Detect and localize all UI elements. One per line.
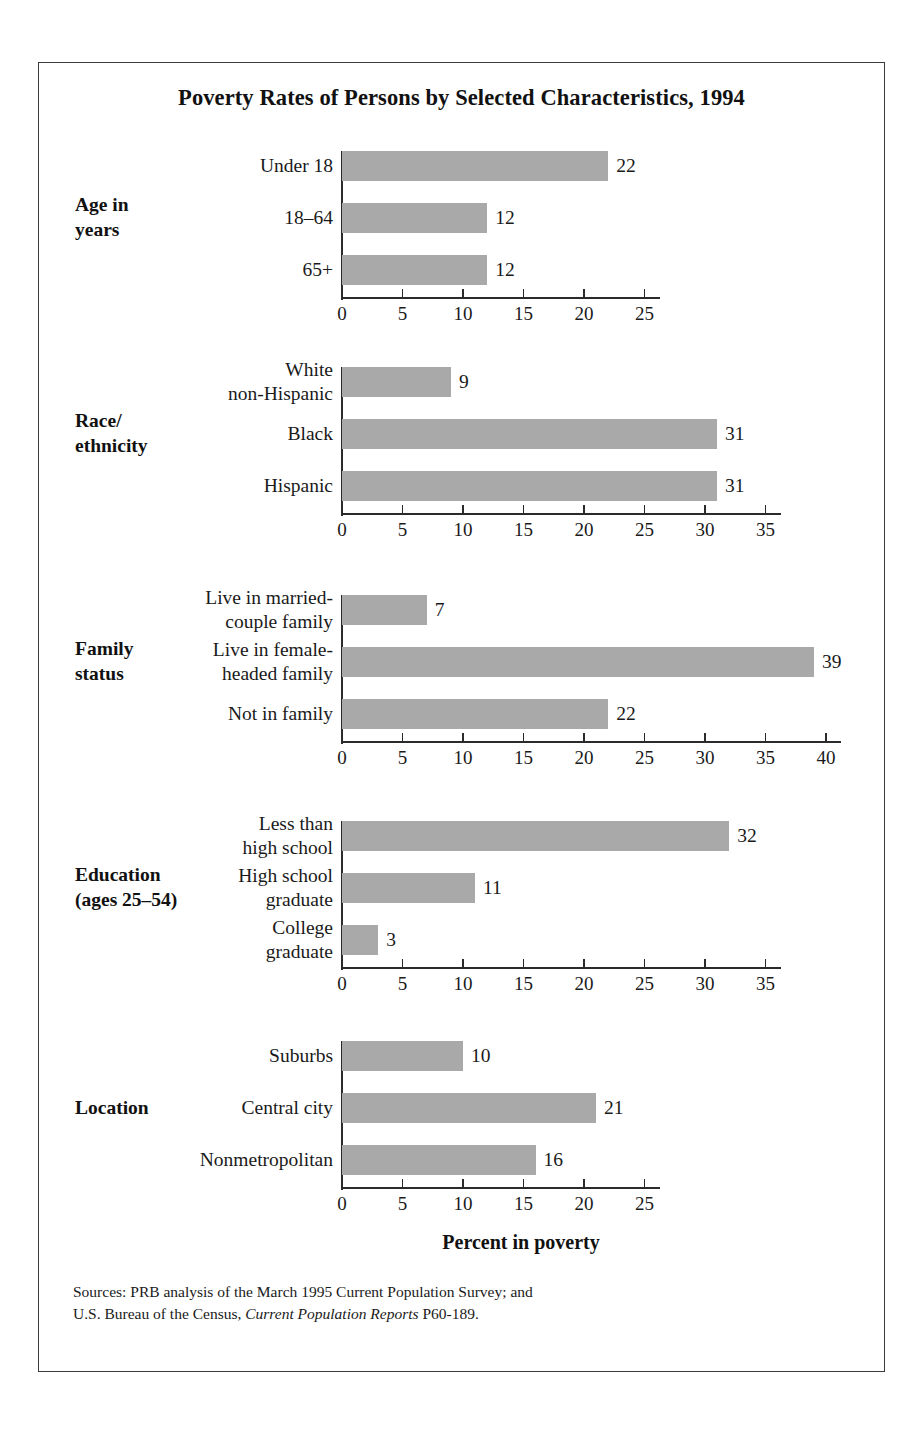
x-axis-tick-label: 25 — [635, 747, 654, 769]
x-axis-tick-label: 15 — [514, 303, 533, 325]
bar-value-label: 31 — [725, 423, 745, 445]
x-axis-tick-label: 20 — [575, 973, 594, 995]
bar — [342, 873, 475, 903]
x-axis-tick — [704, 733, 706, 741]
bar — [342, 419, 717, 449]
category-label: Hispanic — [86, 474, 341, 498]
x-axis-line — [341, 513, 781, 515]
x-axis-tick — [765, 959, 767, 967]
sources-line-1: Sources: PRB analysis of the March 1995 … — [73, 1281, 773, 1303]
bar — [342, 925, 378, 955]
x-axis-tick-label: 35 — [756, 747, 775, 769]
category-label-line: College — [86, 916, 333, 940]
x-axis-tick — [402, 1179, 404, 1187]
x-axis-tick-label: 15 — [514, 1193, 533, 1215]
bar — [342, 1041, 463, 1071]
category-label-line: non-Hispanic — [86, 382, 333, 406]
category-label: Collegegraduate — [86, 916, 341, 964]
x-axis-tick-label: 0 — [337, 1193, 347, 1215]
category-label-line: Live in married- — [86, 586, 333, 610]
category-label: Not in family — [86, 702, 341, 726]
x-axis-tick — [462, 959, 464, 967]
bar — [342, 595, 427, 625]
x-axis-tick — [402, 959, 404, 967]
bar — [342, 471, 717, 501]
x-axis-tick-label: 15 — [514, 973, 533, 995]
x-axis-tick — [341, 959, 343, 967]
bar — [342, 1093, 596, 1123]
bar — [342, 699, 608, 729]
x-axis-tick — [583, 959, 585, 967]
x-axis-tick-label: 0 — [337, 303, 347, 325]
category-label: Suburbs — [86, 1044, 341, 1068]
x-axis-tick — [583, 289, 585, 297]
category-label: Less thanhigh school — [86, 812, 341, 860]
category-label-line: Live in female- — [86, 638, 333, 662]
category-label-line: Nonmetropolitan — [86, 1148, 333, 1172]
bar-value-label: 12 — [495, 259, 515, 281]
bar-value-label: 12 — [495, 207, 515, 229]
x-axis-tick-label: 25 — [635, 973, 654, 995]
category-label-line: high school — [86, 836, 333, 860]
category-label: 18–64 — [86, 206, 341, 230]
bar — [342, 647, 814, 677]
bar-value-label: 16 — [544, 1149, 564, 1171]
x-axis-tick-label: 0 — [337, 747, 347, 769]
x-axis-tick — [341, 289, 343, 297]
category-label-line: graduate — [86, 888, 333, 912]
x-axis-tick-label: 10 — [454, 519, 473, 541]
category-label: High schoolgraduate — [86, 864, 341, 912]
x-axis-line — [341, 297, 660, 299]
bar-value-label: 39 — [822, 651, 842, 673]
category-label-line: Under 18 — [86, 154, 333, 178]
x-axis-tick — [462, 289, 464, 297]
category-label-line: White — [86, 358, 333, 382]
x-axis-tick-label: 10 — [454, 973, 473, 995]
chart-title: Poverty Rates of Persons by Selected Cha… — [39, 85, 884, 111]
x-axis-tick-label: 20 — [575, 519, 594, 541]
x-axis-tick — [765, 505, 767, 513]
x-axis-tick-label: 10 — [454, 1193, 473, 1215]
category-label-line: Not in family — [86, 702, 333, 726]
sources-publisher: U.S. Bureau of the Census, — [73, 1305, 245, 1322]
category-label: 65+ — [86, 258, 341, 282]
x-axis-tick — [402, 505, 404, 513]
category-label-line: 65+ — [86, 258, 333, 282]
bar-value-label: 31 — [725, 475, 745, 497]
x-axis-tick — [462, 733, 464, 741]
x-axis-title: Percent in poverty — [341, 1231, 701, 1254]
bar-value-label: 3 — [386, 929, 396, 951]
sources-line-2: U.S. Bureau of the Census, Current Popul… — [73, 1303, 773, 1325]
x-axis-tick — [825, 733, 827, 741]
category-label: Live in married-couple family — [86, 586, 341, 634]
x-axis-tick-label: 0 — [337, 519, 347, 541]
x-axis-tick — [523, 959, 525, 967]
x-axis-tick-label: 25 — [635, 519, 654, 541]
x-axis-line — [341, 967, 781, 969]
x-axis-line — [341, 741, 841, 743]
category-label-line: Less than — [86, 812, 333, 836]
x-axis-tick-label: 30 — [696, 519, 715, 541]
x-axis-tick-label: 20 — [575, 303, 594, 325]
x-axis-tick — [583, 505, 585, 513]
x-axis-tick-label: 5 — [398, 973, 408, 995]
bar — [342, 1145, 536, 1175]
bar — [342, 821, 729, 851]
x-axis-tick — [644, 1179, 646, 1187]
sources-note: Sources: PRB analysis of the March 1995 … — [73, 1281, 773, 1326]
x-axis-tick — [462, 505, 464, 513]
category-label-line: graduate — [86, 940, 333, 964]
bar — [342, 151, 608, 181]
x-axis-tick-label: 25 — [635, 303, 654, 325]
sources-report-title: Current Population Reports — [245, 1305, 418, 1322]
x-axis-tick — [462, 1179, 464, 1187]
category-label-line: Black — [86, 422, 333, 446]
x-axis-tick — [523, 505, 525, 513]
x-axis-tick — [341, 733, 343, 741]
category-label-line: Central city — [86, 1096, 333, 1120]
category-label: Black — [86, 422, 341, 446]
x-axis-tick — [704, 505, 706, 513]
x-axis-tick-label: 15 — [514, 519, 533, 541]
bar-value-label: 22 — [616, 703, 636, 725]
x-axis-tick-label: 5 — [398, 303, 408, 325]
